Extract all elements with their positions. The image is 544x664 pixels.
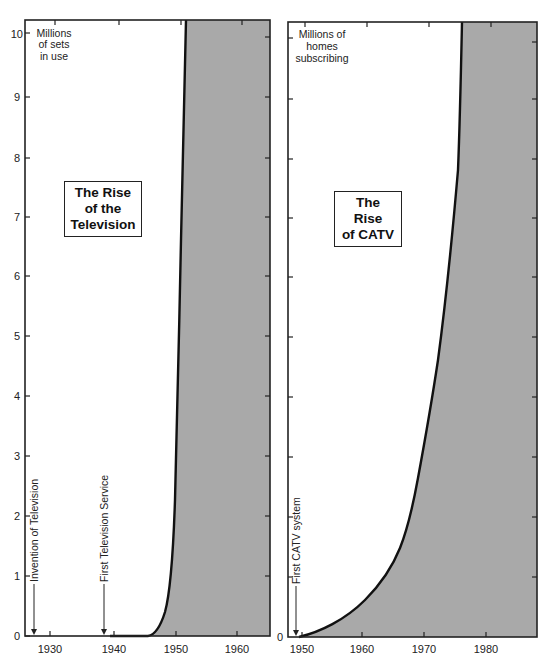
catv-annotation-first-system: First CATV system — [290, 497, 302, 636]
y-tick-10: 10 — [11, 28, 23, 40]
svg-text:homes: homes — [306, 40, 338, 52]
x-tick-1960: 1960 — [225, 643, 249, 655]
y-tick-0: 0 — [14, 630, 20, 642]
y-tick-5: 5 — [14, 330, 20, 342]
tv-area-fill — [148, 20, 270, 636]
tv-annotation-first-service: First Television Service — [98, 475, 110, 635]
x-tick-1950: 1950 — [290, 643, 314, 655]
y-tick-8: 8 — [14, 152, 20, 164]
svg-text:of sets: of sets — [39, 38, 70, 50]
svg-text:First Television Service: First Television Service — [98, 475, 110, 582]
y-tick-2: 2 — [14, 510, 20, 522]
svg-text:Invention of Television: Invention of Television — [28, 479, 40, 582]
tv-chart-title: The Rise of the Television — [64, 181, 142, 237]
x-tick-1940: 1940 — [102, 643, 126, 655]
catv-y-tick-0: 0 — [277, 631, 283, 643]
y-tick-1: 1 — [14, 570, 20, 582]
y-tick-6: 6 — [14, 270, 20, 282]
svg-text:First CATV system: First CATV system — [290, 497, 302, 584]
y-tick-7: 7 — [14, 211, 20, 223]
y-tick-9: 9 — [14, 91, 20, 103]
arrow-down-icon — [31, 629, 37, 635]
tv-y-tick-labels: 0 1 2 3 4 5 6 7 8 9 10 — [11, 28, 23, 642]
tv-y-axis-label: Millions of sets in use — [36, 27, 71, 62]
svg-text:subscribing: subscribing — [295, 52, 348, 64]
x-tick-1950: 1950 — [164, 643, 188, 655]
catv-chart-title: The Rise of CATV — [334, 191, 402, 247]
catv-x-tick-labels: 1950 1960 1970 1980 — [290, 643, 498, 655]
catv-chart: 0 1950 1960 1970 1980 Millions of homes … — [277, 22, 537, 655]
x-tick-1930: 1930 — [38, 643, 62, 655]
tv-chart: 0 1 2 3 4 5 6 7 8 9 10 1930 1940 1950 19… — [11, 20, 270, 655]
x-tick-1980: 1980 — [474, 643, 498, 655]
x-tick-1970: 1970 — [412, 643, 436, 655]
svg-text:Millions of: Millions of — [299, 28, 346, 40]
y-tick-3: 3 — [14, 450, 20, 462]
svg-text:in use: in use — [40, 50, 68, 62]
chart-canvas: 0 1 2 3 4 5 6 7 8 9 10 1930 1940 1950 19… — [0, 0, 544, 664]
y-tick-4: 4 — [14, 390, 20, 402]
arrow-down-icon — [293, 630, 299, 636]
tv-x-tick-labels: 1930 1940 1950 1960 — [38, 643, 249, 655]
catv-y-axis-label: Millions of homes subscribing — [295, 28, 348, 64]
x-tick-1960: 1960 — [350, 643, 374, 655]
catv-area-fill — [299, 22, 537, 637]
arrow-down-icon — [101, 629, 107, 635]
tv-annotation-invention: Invention of Television — [28, 479, 40, 635]
